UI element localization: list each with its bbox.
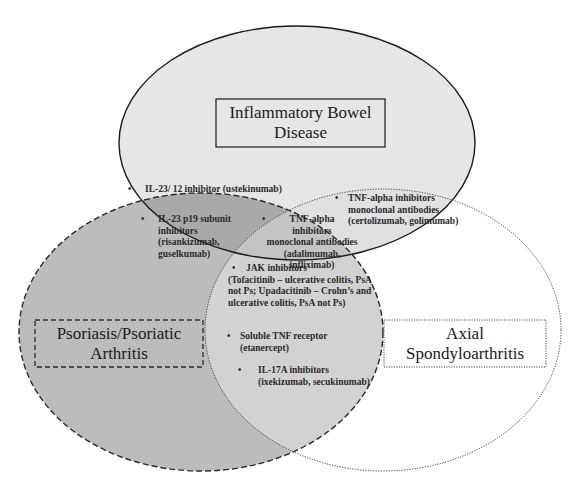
psoriasis-label-line-2: Arthritis: [90, 344, 148, 364]
drug-item-text-line: (Tofacitinib – ulcerative colitis, PsA: [228, 275, 372, 287]
drug-item-text-line: guselkumab): [158, 249, 231, 261]
bullet-icon: •: [141, 214, 144, 226]
bullet-icon: •: [262, 214, 265, 226]
drug-item-text-line: not Ps; Upadacitinib – Crohn’s and: [228, 286, 372, 298]
drug-item-text-line: Soluble TNF receptor: [240, 331, 327, 343]
psoriasis-label: Psoriasis/Psoriatic Arthritis: [35, 320, 203, 367]
bullet-icon: •: [335, 193, 338, 205]
drug-item-text-line: IL-17A inhibitors: [258, 365, 370, 377]
drug-item-tnf-certolizumab-golimumab: • TNF-alpha inhibitors monoclonal antibo…: [348, 193, 458, 228]
bullet-icon: •: [232, 263, 235, 275]
drug-item-jak-inhibitors: • JAK inhibitors (Tofacitinib – ulcerati…: [228, 263, 372, 309]
ibd-label-line-1: Inflammatory Bowel: [229, 103, 371, 123]
drug-item-text-line: (ixekizumab, secukinumab): [258, 377, 370, 389]
drug-item-il23-p19: • IL-23 p19 subunit inhibitors (risankiz…: [158, 214, 231, 260]
drug-item-text-line: (certolizumab, golimumab): [348, 216, 458, 228]
drug-item-soluble-tnf-receptor: • Soluble TNF receptor (etanercept): [240, 331, 327, 354]
axspa-label-line-2: Spondyloarthritis: [406, 344, 524, 364]
drug-item-text-line: JAK inhibitors: [228, 263, 372, 275]
psoriasis-label-line-1: Psoriasis/Psoriatic: [57, 324, 182, 344]
drug-item-text: IL-23/ 12 inhibitor (ustekinumab): [145, 184, 282, 196]
drug-item-text-line: inhibitors: [262, 226, 362, 238]
axspa-label-line-1: Axial: [446, 324, 484, 344]
drug-item-text-line: TNF-alpha inhibitors: [348, 193, 458, 205]
drug-item-text-line: inhibitors: [158, 226, 231, 238]
drug-item-text-line: monoclonal antibodies: [262, 237, 362, 249]
drug-item-text-line: monoclonal antibodies: [348, 205, 458, 217]
drug-item-text-line: TNF-alpha: [262, 214, 362, 226]
ibd-label-line-2: Disease: [274, 123, 327, 143]
drug-item-text-line: (etanercept): [240, 343, 327, 355]
axspa-label: Axial Spondyloarthritis: [384, 320, 546, 367]
drug-item-text-line: ulcerative colitis, PsA not Ps): [228, 298, 372, 310]
bullet-icon: •: [238, 365, 241, 377]
drug-item-text-line: (risankizumab,: [158, 237, 231, 249]
bullet-icon: •: [227, 331, 230, 343]
ibd-label: Inflammatory Bowel Disease: [216, 99, 385, 147]
drug-item-il17a-inhibitors: • IL-17A inhibitors (ixekizumab, secukin…: [258, 365, 370, 388]
bullet-icon: •: [128, 184, 131, 196]
drug-item-il23-12: • IL-23/ 12 inhibitor (ustekinumab): [145, 184, 282, 196]
drug-item-text-line: IL-23 p19 subunit: [158, 214, 231, 226]
